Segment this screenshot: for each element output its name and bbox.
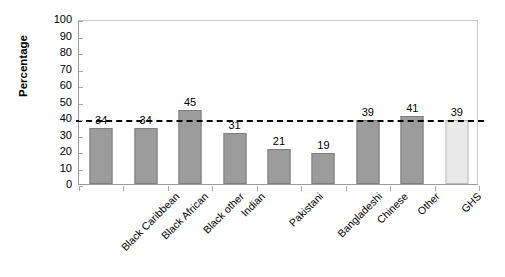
y-tick-mark <box>79 170 83 171</box>
y-tick-label: 20 <box>38 146 72 157</box>
y-tick-label: 10 <box>38 163 72 174</box>
y-tick-label: 40 <box>38 113 72 124</box>
bar-value-label: 41 <box>406 103 418 114</box>
bar[interactable] <box>312 153 335 184</box>
x-axis-category-labels: Black CaribbeanBlack AfricanBlack otherI… <box>78 186 478 277</box>
bar-slot: 34 <box>123 21 167 184</box>
y-axis-title: Percentage <box>17 21 29 111</box>
bar[interactable] <box>223 133 246 184</box>
bar-value-label: 39 <box>451 107 463 118</box>
y-tick-mark <box>79 87 83 88</box>
x-axis-label: Pakistani <box>286 190 325 229</box>
bar-slot: 19 <box>301 21 345 184</box>
y-axis-tick-labels: 1009080706050403020100 <box>38 0 72 277</box>
y-tick-label: 50 <box>38 97 72 108</box>
y-tick-label: 0 <box>38 179 72 190</box>
bar-value-label: 39 <box>362 107 374 118</box>
y-tick-label: 30 <box>38 130 72 141</box>
bar[interactable] <box>134 128 157 184</box>
bar[interactable] <box>90 128 113 184</box>
plot-area: 343445312119394139 <box>78 20 478 185</box>
bar-value-label: 19 <box>317 140 329 151</box>
y-tick-label: 90 <box>38 31 72 42</box>
bar-slot: 45 <box>168 21 212 184</box>
bar-slot: 39 <box>435 21 479 184</box>
y-tick-label: 80 <box>38 47 72 58</box>
bar[interactable] <box>401 116 424 184</box>
y-tick-mark <box>79 71 83 72</box>
bar-value-label: 21 <box>273 136 285 147</box>
x-axis-label: Other <box>415 190 442 217</box>
y-tick-label: 60 <box>38 80 72 91</box>
bar-value-label: 45 <box>184 97 196 108</box>
x-tick-mark <box>479 186 480 191</box>
y-tick-mark <box>79 104 83 105</box>
bar-slot: 39 <box>346 21 390 184</box>
bar[interactable] <box>267 149 290 184</box>
reference-line <box>76 120 484 122</box>
bar[interactable] <box>445 120 468 184</box>
bar-slot: 31 <box>212 21 256 184</box>
y-tick-mark <box>79 120 83 121</box>
y-tick-label: 70 <box>38 64 72 75</box>
y-tick-mark <box>79 137 83 138</box>
bar-slot: 34 <box>79 21 123 184</box>
bars-layer: 343445312119394139 <box>79 21 477 184</box>
bar[interactable] <box>356 120 379 184</box>
y-tick-mark <box>79 38 83 39</box>
bar-chart: Percentage 1009080706050403020100 343445… <box>0 0 505 277</box>
x-axis-label: GHS <box>458 190 483 215</box>
bar-slot: 41 <box>390 21 434 184</box>
y-tick-label: 100 <box>38 14 72 25</box>
y-tick-mark <box>79 54 83 55</box>
y-tick-mark <box>79 21 83 22</box>
y-tick-mark <box>79 153 83 154</box>
bar-slot: 21 <box>257 21 301 184</box>
